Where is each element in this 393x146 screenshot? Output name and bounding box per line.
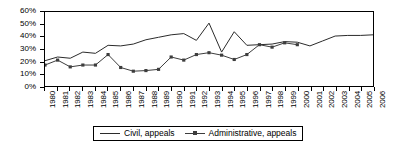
data-point-marker [106,53,109,56]
y-tick-label: 50% [20,20,36,28]
data-point-marker [94,63,97,66]
x-tick-label: 2006 [378,91,387,108]
legend-entry[interactable]: Administrative, appeals [185,129,297,138]
x-tick-label: 2000 [302,91,311,108]
x-tick-label: 2002 [327,91,336,108]
chart-container: 0%10%20%30%40%50%60% 1980198119821983198… [0,0,393,146]
data-point-marker [296,43,299,46]
x-tick-label: 2001 [315,91,324,108]
y-tick-label: 40% [20,32,36,40]
chart-legend: Civil, appealsAdministrative, appeals [93,126,303,141]
legend-label: Administrative, appeals [209,129,297,138]
x-tick-label: 1983 [86,91,95,108]
y-axis: 0%10%20%30%40%50%60% [0,11,40,87]
data-point-marker [56,59,59,62]
data-point-marker [132,70,135,73]
x-tick-label: 1993 [213,91,222,108]
y-tick-label: 0% [24,83,36,91]
x-tick-label: 1989 [162,91,171,108]
data-point-marker [270,46,273,49]
x-tick-label: 2004 [353,91,362,108]
data-point-marker [182,59,185,62]
data-point-marker [195,53,198,56]
data-point-marker [233,58,236,61]
x-tick-label: 1988 [150,91,159,108]
data-point-marker [245,53,248,56]
plot-area [44,11,374,87]
x-tick-label: 1981 [61,91,70,108]
x-tick-label: 1996 [251,91,260,108]
data-point-marker [69,65,72,68]
x-tick-label: 1990 [175,91,184,108]
x-tick-label: 1985 [111,91,120,108]
x-tick-label: 1999 [289,91,298,108]
x-tick-label: 2003 [340,91,349,108]
data-point-marker [157,68,160,71]
data-point-marker [207,51,210,54]
legend-entry[interactable]: Civil, appeals [100,129,175,138]
data-point-marker [170,55,173,58]
legend-label: Civil, appeals [124,129,175,138]
x-tick-label: 1992 [200,91,209,108]
x-tick-label: 2005 [365,91,374,108]
plot-svg [45,12,373,86]
data-point-marker [119,66,122,69]
data-point-marker [45,63,47,66]
x-tick-label: 1986 [124,91,133,108]
x-tick-label: 1984 [99,91,108,108]
x-tick-label: 1998 [276,91,285,108]
y-tick-label: 60% [20,7,36,15]
legend-swatch-line [100,129,120,138]
y-tick-label: 30% [20,45,36,53]
series-line [45,23,373,61]
x-tick-label: 1982 [73,91,82,108]
data-point-marker [81,63,84,66]
y-tick-label: 10% [20,70,36,78]
data-point-marker [283,41,286,44]
x-tick-mark [374,87,375,91]
y-tick-label: 20% [20,58,36,66]
legend-swatch-marker-line [185,129,205,138]
x-tick-label: 1991 [188,91,197,108]
x-tick-label: 1997 [264,91,273,108]
data-point-marker [144,69,147,72]
x-tick-label: 1995 [238,91,247,108]
x-axis: 1980198119821983198419851986198719881989… [44,91,374,121]
x-tick-label: 1994 [226,91,235,108]
data-point-marker [258,43,261,46]
x-tick-label: 1987 [137,91,146,108]
data-point-marker [220,54,223,57]
x-tick-label: 1980 [48,91,57,108]
